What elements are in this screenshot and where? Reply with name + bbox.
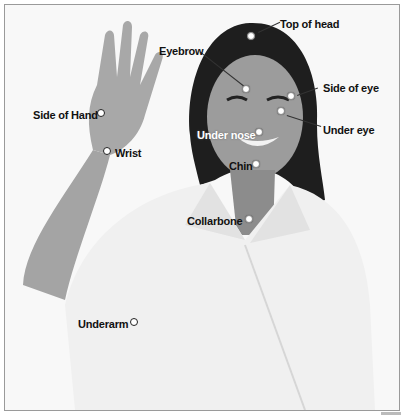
collarbone-label: Collarbone <box>187 215 242 227</box>
underarm-label: Underarm <box>78 318 128 330</box>
eyebrow-dot[interactable] <box>242 85 250 93</box>
underarm-dot[interactable] <box>130 318 138 326</box>
corner-mark <box>381 412 401 415</box>
under-nose-label: Under nose <box>197 129 256 141</box>
side-of-hand-dot[interactable] <box>97 109 105 117</box>
under-nose-dot[interactable] <box>255 128 263 136</box>
side-of-eye-dot[interactable] <box>287 92 295 100</box>
under-eye-label: Under eye <box>323 124 374 136</box>
photo-illustration <box>5 5 399 410</box>
chin-dot[interactable] <box>252 160 260 168</box>
wrist-label: Wrist <box>115 147 141 159</box>
under-eye-dot[interactable] <box>277 107 285 115</box>
diagram-frame: Top of head Eyebrow Side of eye Under ey… <box>4 4 400 411</box>
eyebrow-label: Eyebrow <box>159 45 203 57</box>
side-of-hand-label: Side of Hand <box>33 109 98 121</box>
chin-label: Chin <box>229 160 253 172</box>
wrist-dot[interactable] <box>103 147 111 155</box>
side-of-eye-label: Side of eye <box>323 82 379 94</box>
top-of-head-dot[interactable] <box>247 32 255 40</box>
collarbone-dot[interactable] <box>245 215 253 223</box>
top-of-head-label: Top of head <box>280 18 339 30</box>
